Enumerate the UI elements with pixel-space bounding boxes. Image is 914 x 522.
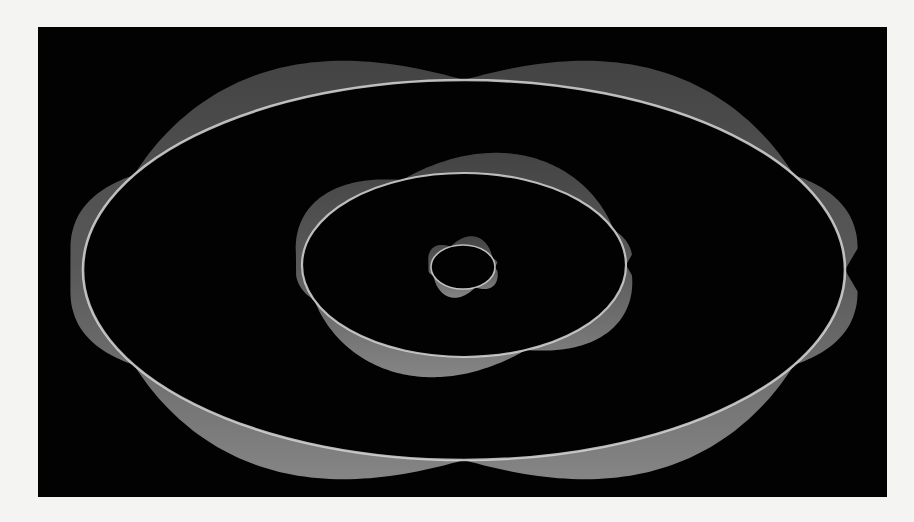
ring-modes-graphic [38, 27, 887, 497]
outer-ring-band [70, 61, 857, 480]
middle-ring [296, 153, 633, 377]
inner-ring [428, 236, 497, 298]
middle-ring-centerline [302, 173, 626, 357]
inner-ring-centerline [431, 245, 495, 289]
middle-ring-band [296, 153, 633, 377]
outer-ring [70, 61, 857, 480]
figure-canvas [38, 27, 887, 497]
outer-ring-centerline [83, 80, 845, 460]
